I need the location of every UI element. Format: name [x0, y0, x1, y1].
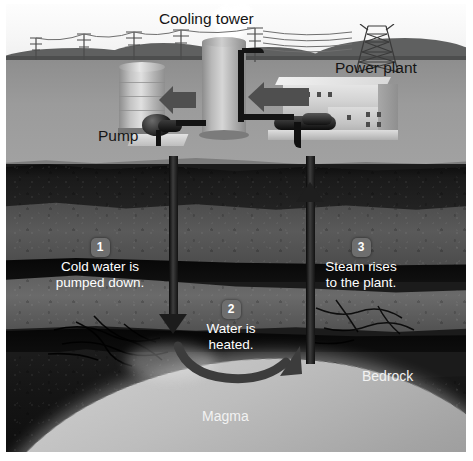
step-1-line-2: pumped down.: [44, 275, 156, 291]
rock-fractures-icon: [306, 284, 456, 364]
label-power-plant: Power plant: [335, 59, 417, 77]
step-3-line-2: to the plant.: [306, 275, 416, 291]
pipe-tower-top-elbow: [242, 48, 264, 53]
label-pump: Pump: [98, 127, 139, 145]
step-1-line-1: Cold water is: [44, 259, 156, 275]
pipe-pump-to-tower: [176, 120, 206, 126]
step-2-line-2: heated.: [183, 337, 279, 353]
diagram-frame: Cooling tower Power plant Pump Bedrock M…: [6, 4, 466, 452]
strata-layer-soil: [6, 164, 466, 210]
injection-well-pipe: [169, 156, 178, 318]
label-magma: Magma: [202, 408, 249, 424]
diagram-canvas: Cooling tower Power plant Pump Bedrock M…: [0, 0, 473, 461]
pipe-tower-to-plant: [242, 114, 294, 120]
step-badge-2: 2: [222, 300, 241, 319]
step-2-line-1: Water is: [183, 321, 279, 337]
flow-arrow-to-tank-icon: [172, 92, 196, 108]
flow-arrow-to-tower-icon: [263, 88, 309, 106]
plant-downpipe: [294, 122, 301, 148]
step-callout-2: 2 Water is heated.: [183, 300, 279, 353]
step-badge-3: 3: [352, 238, 371, 257]
label-cooling-tower: Cooling tower: [159, 10, 254, 28]
step-badge-1: 1: [91, 238, 110, 257]
step-callout-3: 3 Steam rises to the plant.: [306, 238, 416, 291]
pipe-tower-riser: [238, 50, 244, 122]
production-arrow-up-icon: [296, 182, 324, 202]
label-bedrock: Bedrock: [362, 368, 413, 384]
step-3-line-1: Steam rises: [306, 259, 416, 275]
step-callout-1: 1 Cold water is pumped down.: [44, 238, 156, 291]
